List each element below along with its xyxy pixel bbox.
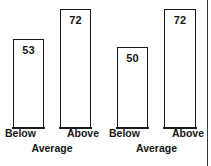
tick-label-group2-below: Below [109, 127, 140, 139]
bar-chart-figure: 53 72 50 72 Below Above Average Below Ab… [0, 0, 211, 166]
tick-label-group1-above: Above [67, 127, 99, 139]
axis-group-1-caption: Average [5, 142, 99, 154]
axis-group-2-caption: Average [109, 142, 204, 154]
bar-value-label: 72 [165, 14, 195, 26]
axis-group-1: Below Above Average [5, 127, 99, 154]
axis-label-area: Below Above Average Below Above Average [0, 127, 211, 166]
tick-label-group2-above: Above [172, 127, 204, 139]
bar-group1-above: 72 [60, 9, 91, 127]
bar-group2-above: 72 [164, 9, 196, 127]
tick-label-group1-below: Below [5, 127, 36, 139]
axis-group-1-ticks: Below Above [5, 127, 99, 139]
axis-group-2: Below Above Average [109, 127, 204, 154]
bar-value-label: 53 [14, 44, 43, 56]
page-edge-rule [207, 0, 208, 166]
plot-area: 53 72 50 72 [0, 0, 211, 127]
bar-value-label: 50 [118, 52, 147, 64]
bar-group1-below: 53 [13, 39, 44, 127]
bar-value-label: 72 [61, 14, 90, 26]
bar-group2-below: 50 [117, 47, 148, 127]
axis-group-2-ticks: Below Above [109, 127, 204, 139]
